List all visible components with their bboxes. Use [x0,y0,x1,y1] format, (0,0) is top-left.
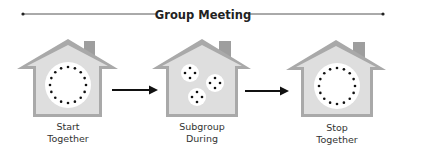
person-dot [189,67,192,70]
person-dot [352,92,355,95]
person-dot [348,72,351,75]
person-dot [348,97,351,100]
person-dot [214,77,217,80]
person-dot [354,85,357,88]
person-dot [184,72,187,75]
person-dot [336,67,339,70]
person-dot [191,96,194,99]
person-dot [74,67,77,70]
person-dot [329,101,332,104]
person-dot [196,91,199,94]
person-dot [67,66,70,69]
person-dot [49,84,52,87]
person-dot [219,82,222,85]
person-dot [318,85,321,88]
person-dot [54,96,57,99]
diagram-title: Group Meeting [155,8,251,22]
person-dot [85,84,88,87]
person-dot [352,78,355,81]
person-dot [209,82,212,85]
person-dot [329,68,332,71]
person-dot [50,91,53,94]
house-subgroup-during: Subgroup During [152,39,251,144]
person-dot [79,96,82,99]
group-circle [45,62,91,108]
person-dot [50,77,53,80]
person-dot [323,97,326,100]
arrow-head-icon [280,87,289,96]
person-dot [319,78,322,81]
person-dot [336,103,339,106]
group-circle [314,63,360,109]
arrow-2 [245,87,289,96]
stage-label-line2: Together [315,134,357,145]
person-dot [60,100,63,103]
stage-label-line1: Start [56,121,79,132]
person-dot [319,92,322,95]
subgroup-circle-c [188,88,206,106]
person-dot [201,96,204,99]
house-start-together: Start Together [17,39,118,144]
stage-label-line2: Together [46,133,88,144]
arrow-1 [112,86,158,95]
person-dot [189,77,192,80]
person-dot [54,71,57,74]
subgroup-circle-b [206,74,224,92]
person-dot [196,101,199,104]
person-dot [343,68,346,71]
header-timeline: Group Meeting [21,8,384,22]
person-dot [194,72,197,75]
timeline-end-dot [381,12,384,15]
person-dot [343,101,346,104]
person-dot [60,67,63,70]
arrow-head-icon [149,86,158,95]
person-dot [83,91,86,94]
person-dot [323,72,326,75]
group-meeting-diagram: Group Meeting Start Together Subgroup Du… [0,0,423,158]
person-dot [67,102,70,105]
person-dot [83,77,86,80]
person-dot [214,87,217,90]
stage-label-line1: Stop [326,122,348,133]
stage-label-line2: During [186,133,218,144]
subgroup-circle-a [181,64,199,82]
stage-label-line1: Subgroup [179,121,225,132]
person-dot [79,71,82,74]
timeline-start-dot [21,12,24,15]
person-dot [74,100,77,103]
house-stop-together: Stop Together [286,40,386,145]
